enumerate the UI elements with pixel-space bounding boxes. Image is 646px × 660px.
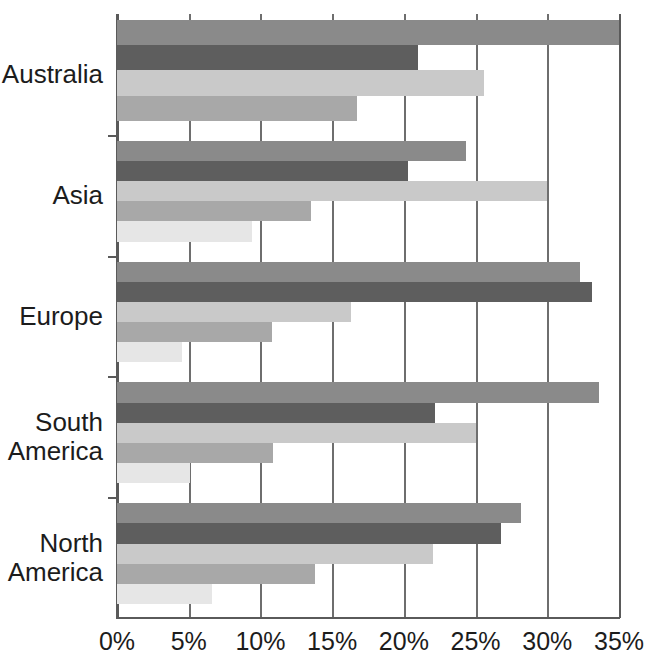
bar[interactable]: [117, 463, 190, 483]
category-label: SouthAmerica: [0, 408, 103, 466]
x-axis-tick-label: 35%: [594, 626, 644, 656]
bar[interactable]: [117, 161, 408, 181]
bar-row: [117, 70, 619, 95]
bar-row: [117, 96, 619, 121]
y-axis-tick: [108, 376, 117, 378]
category-label-line: America: [0, 437, 103, 466]
x-axis-tick-label: 25%: [451, 626, 501, 656]
y-axis-tick: [108, 256, 117, 258]
category-label-line: Australia: [0, 60, 103, 89]
bar-row: [117, 282, 619, 302]
bar-row: [117, 181, 619, 201]
bar-row: [117, 221, 619, 241]
x-axis-line: [116, 617, 620, 619]
bar[interactable]: [117, 70, 484, 95]
gridline: [619, 14, 621, 618]
bar-row: [117, 403, 619, 423]
bar-row: [117, 20, 619, 45]
bar[interactable]: [117, 45, 418, 70]
category-label-line: South: [0, 408, 103, 437]
x-axis-tick-label: 15%: [307, 626, 357, 656]
bar-row: [117, 302, 619, 322]
bar-row: [117, 463, 619, 483]
category-label: Europe: [0, 302, 103, 331]
category-label-line: America: [0, 558, 103, 587]
bar[interactable]: [117, 423, 476, 443]
bar[interactable]: [117, 201, 311, 221]
bar-row: [117, 45, 619, 70]
bar-row: [117, 584, 619, 604]
x-axis-tick-label: 30%: [522, 626, 572, 656]
bar[interactable]: [117, 96, 357, 121]
bar-group: [117, 14, 619, 135]
bar[interactable]: [117, 443, 273, 463]
category-label: NorthAmerica: [0, 529, 103, 587]
bar[interactable]: [117, 302, 351, 322]
bar-row: [117, 423, 619, 443]
category-label-line: North: [0, 529, 103, 558]
bar[interactable]: [117, 221, 252, 241]
y-axis-tick: [108, 135, 117, 137]
plot-area: [117, 14, 619, 618]
bar[interactable]: [117, 322, 272, 342]
bar[interactable]: [117, 141, 466, 161]
bar-row: [117, 382, 619, 402]
y-axis-tick: [108, 497, 117, 499]
category-label: Australia: [0, 60, 103, 89]
bar[interactable]: [117, 503, 521, 523]
bar-row: [117, 161, 619, 181]
bar[interactable]: [117, 544, 433, 564]
bar[interactable]: [117, 181, 547, 201]
bar-row: [117, 544, 619, 564]
category-label-line: Europe: [0, 302, 103, 331]
x-axis-tick-label: 5%: [171, 626, 207, 656]
category-label-line: Asia: [0, 181, 103, 210]
bar-row: [117, 342, 619, 362]
bar-group: [117, 256, 619, 377]
bar-row: [117, 262, 619, 282]
bar[interactable]: [117, 262, 580, 282]
bar-row: [117, 322, 619, 342]
bar-row: [117, 564, 619, 584]
bar-group: [117, 497, 619, 618]
bar-group: [117, 135, 619, 256]
bar-group: [117, 376, 619, 497]
bar[interactable]: [117, 20, 619, 45]
bar[interactable]: [117, 342, 182, 362]
bar[interactable]: [117, 403, 435, 423]
bar-row: [117, 141, 619, 161]
x-axis-tick-label: 10%: [235, 626, 285, 656]
bar[interactable]: [117, 282, 592, 302]
bar[interactable]: [117, 584, 212, 604]
x-axis-tick-label: 0%: [99, 626, 135, 656]
bar[interactable]: [117, 523, 501, 543]
bar-row: [117, 503, 619, 523]
bar-chart: AustraliaAsiaEuropeSouthAmericaNorthAmer…: [0, 0, 646, 660]
category-label: Asia: [0, 181, 103, 210]
bar-row: [117, 201, 619, 221]
bar-row: [117, 443, 619, 463]
bar[interactable]: [117, 564, 315, 584]
bar[interactable]: [117, 382, 599, 402]
bar-row: [117, 523, 619, 543]
x-axis-tick-label: 20%: [379, 626, 429, 656]
